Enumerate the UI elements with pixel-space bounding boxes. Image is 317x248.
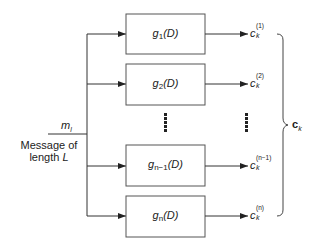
output-label-1: c(1)k <box>250 27 256 39</box>
output-label-3: c(n−1)k <box>250 159 256 171</box>
sub: n−1 <box>154 163 168 172</box>
c: c <box>250 209 256 221</box>
block-label-g1: g1(D) <box>126 27 205 41</box>
sup: (1) <box>256 22 264 29</box>
c: c <box>250 159 256 171</box>
arg: (D) <box>163 27 178 39</box>
output-label-4: c(n)k <box>250 209 256 221</box>
input-caption: Message of length L <box>17 139 81 163</box>
c: c <box>250 77 256 89</box>
caption-prefix: length <box>29 151 62 163</box>
block-label-g2: g2(D) <box>126 77 205 91</box>
input-symbol-sub: l <box>70 126 72 133</box>
caption-var: L <box>62 151 68 163</box>
output-label-2: c(2)k <box>250 77 256 89</box>
ellipsis-blocks <box>164 113 167 132</box>
arg: (D) <box>163 77 178 89</box>
block-label-gn: gn(D) <box>126 209 205 223</box>
sub: k <box>256 164 260 171</box>
sub: k <box>298 125 302 132</box>
block-label-gn-1: gn−1(D) <box>126 158 205 172</box>
ellipsis-outputs <box>245 113 248 132</box>
sub: k <box>256 214 260 221</box>
caption-line-1: Message of <box>17 139 81 151</box>
sub: k <box>256 82 260 89</box>
arg: (D) <box>163 209 178 221</box>
right-brace <box>277 34 288 216</box>
sup: (n) <box>256 204 264 211</box>
input-symbol: ml <box>61 119 72 136</box>
caption-line-2: length L <box>17 151 81 163</box>
input-symbol-m: m <box>61 119 70 131</box>
combined-output-label: ck <box>292 118 302 132</box>
c: c <box>250 27 256 39</box>
sup: (n−1) <box>256 154 271 161</box>
arg: (D) <box>168 158 183 170</box>
sup: (2) <box>256 72 264 79</box>
sub: k <box>256 32 260 39</box>
